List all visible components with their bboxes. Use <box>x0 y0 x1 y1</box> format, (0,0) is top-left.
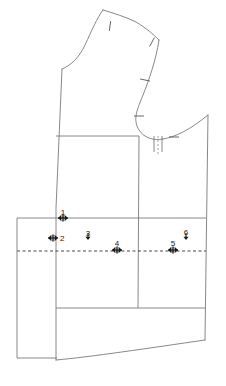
inner-construction-lines-group <box>17 136 206 358</box>
marker-arrowhead-down <box>183 237 188 240</box>
marker-4: 4 <box>112 239 122 254</box>
outline-hem-curve <box>56 340 205 360</box>
pattern-svg-root: 123456 <box>0 0 226 386</box>
marker-arrowhead-left <box>48 235 51 241</box>
marker-label-1: 1 <box>61 208 66 217</box>
notch-mark-notch-shoulder-left <box>109 21 110 31</box>
outline-underarm-to-side <box>163 115 208 139</box>
numbered-markers-group: 123456 <box>48 208 189 254</box>
marker-label-4: 4 <box>115 239 120 248</box>
outline-side-seam <box>205 115 208 340</box>
armhole-dart-slash-group <box>154 136 162 154</box>
outline-armhole-curve <box>136 40 163 140</box>
outline-neck-curve <box>62 10 103 69</box>
marker-label-3: 3 <box>86 229 91 238</box>
marker-label-2: 2 <box>60 234 65 243</box>
line-princess-seam-vertical <box>138 136 139 308</box>
pattern-drawing-canvas: 123456 <box>0 0 226 386</box>
marker-5: 5 <box>168 239 178 254</box>
marker-2: 2 <box>48 234 65 243</box>
outline-shoulder-and-neck <box>103 10 159 40</box>
marker-label-5: 5 <box>171 239 176 248</box>
notch-marks-group <box>109 21 179 137</box>
notch-mark-notch-shoulder-right <box>150 38 155 47</box>
marker-3: 3 <box>85 229 90 240</box>
bodice-outline-group <box>56 10 208 360</box>
marker-6: 6 <box>183 228 188 240</box>
marker-label-6: 6 <box>184 228 189 237</box>
marker-1: 1 <box>58 208 68 222</box>
